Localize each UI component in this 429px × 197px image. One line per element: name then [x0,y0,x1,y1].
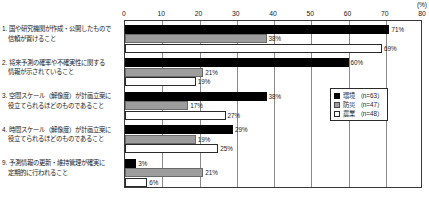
x-tick-10: 10 [157,9,165,18]
bar-slot: 29% [125,125,421,134]
bar-環境 [125,125,233,134]
bar-value-label: 29% [233,125,248,134]
bar-slot: 21% [125,168,421,177]
category-label-line: 4. 時間スケール（解像度）が計画立案に [2,125,122,135]
bar-group: 3%21%6% [125,159,421,188]
bar-農業 [125,178,147,187]
bar-value-label: 19% [196,135,211,144]
bar-value-label: 60% [349,58,364,67]
legend-item-農業: 農業 （n=48） [334,109,383,118]
x-tick-30: 30 [232,9,240,18]
category-label-line: 3. 空間スケール（解像度）が計画立案に [2,91,122,101]
legend-label: 農業 （n=48） [343,109,383,118]
bar-slot: 19% [125,135,421,144]
legend-item-防災: 防災 （n=47） [334,100,383,109]
x-axis-tick-labels: 01020304050607080 [124,9,422,19]
bar-group: 71%38%69% [125,25,421,54]
category-label: 1. 国や研究機関が作成・公開したもので信頼が置けること [2,24,122,43]
bar-slot: 71% [125,25,421,34]
x-tick-80: 80 [418,9,426,18]
category-label-line: 9. 予測情報の更新・維持管理が確実に [2,158,122,168]
x-tick-20: 20 [195,9,203,18]
bar-防災 [125,34,267,43]
category-label-line: 1. 国や研究機関が作成・公開したもので [2,24,122,34]
x-tick-40: 40 [269,9,277,18]
bar-value-label: 69% [382,44,397,53]
x-tick-0: 0 [122,9,126,18]
chart-legend: 環境 （n=63）防災 （n=47）農業 （n=48） [330,88,388,121]
category-label: 4. 時間スケール（解像度）が計画立案に役立てられるほどのものであること [2,125,122,144]
bar-value-label: 21% [203,168,218,177]
legend-swatch-icon [334,111,340,117]
bar-農業 [125,111,226,120]
bar-value-label: 38% [267,92,282,101]
bar-防災 [125,168,203,177]
category-label-line: 定期的に行われること [2,168,122,178]
bar-slot: 60% [125,58,421,67]
legend-swatch-icon [334,93,340,99]
x-tick-60: 60 [344,9,352,18]
legend-label: 防災 （n=47） [343,100,383,109]
legend-label: 環境 （n=63） [343,91,383,100]
bar-防災 [125,68,203,77]
axis-unit-label: (%) [417,1,427,9]
bar-value-label: 27% [226,111,241,120]
category-label: 9. 予測情報の更新・維持管理が確実に定期的に行われること [2,158,122,177]
bar-slot: 21% [125,68,421,77]
category-label-line: 役立てられるほどのものであること [2,101,122,111]
bar-防災 [125,135,196,144]
category-label-line: 役立てられるほどのものであること [2,134,122,144]
bar-slot: 25% [125,144,421,153]
bar-value-label: 38% [267,34,282,43]
bar-環境 [125,159,136,168]
bar-value-label: 3% [136,159,147,168]
category-label-line: 信頼が置けること [2,34,122,44]
bar-group: 60%21%19% [125,58,421,87]
bar-value-label: 25% [218,144,233,153]
bar-slot: 69% [125,44,421,53]
category-label: 3. 空間スケール（解像度）が計画立案に役立てられるほどのものであること [2,91,122,110]
bar-slot: 6% [125,178,421,187]
horizontal-bar-chart: (%) 01020304050607080 71%38%69%60%21%19%… [0,0,429,197]
bar-group: 29%19%25% [125,125,421,154]
bar-農業 [125,77,196,86]
legend-swatch-icon [334,102,340,108]
bar-slot: 3% [125,159,421,168]
bar-農業 [125,44,382,53]
x-tick-70: 70 [381,9,389,18]
bar-value-label: 19% [196,77,211,86]
x-tick-50: 50 [306,9,314,18]
bar-環境 [125,25,389,34]
bar-value-label: 6% [147,178,158,187]
legend-item-環境: 環境 （n=63） [334,91,383,100]
bar-value-label: 71% [389,25,404,34]
category-label-line: 情報が示されていること [2,67,122,77]
bar-農業 [125,144,218,153]
bar-防災 [125,101,188,110]
category-label: 2. 将来予測の確率や不確実性に関する情報が示されていること [2,58,122,77]
bar-環境 [125,58,349,67]
bar-value-label: 21% [203,68,218,77]
bar-slot: 38% [125,34,421,43]
bar-value-label: 17% [188,101,203,110]
bar-環境 [125,92,267,101]
bar-slot: 19% [125,77,421,86]
category-label-line: 2. 将来予測の確率や不確実性に関する [2,58,122,68]
